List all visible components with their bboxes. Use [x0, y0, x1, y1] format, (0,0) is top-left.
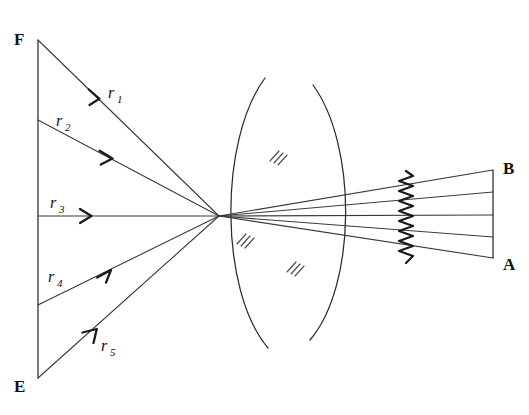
- arrowhead-r1: [89, 90, 100, 106]
- svg-text:r: r: [56, 112, 63, 129]
- label-ray-r4: r 4: [48, 268, 63, 289]
- diagram-labels: F E B A r 1 r 2 r 3 r 4 r 5: [14, 30, 516, 396]
- label-ray-r2: r 2: [56, 112, 71, 133]
- label-point-F: F: [14, 30, 24, 49]
- ray-r2-incident: [38, 120, 219, 216]
- label-point-E: E: [14, 377, 25, 396]
- ray-r3-refracted: [219, 215, 493, 216]
- label-ray-r3: r 3: [50, 194, 65, 215]
- ray-r2-refracted: [219, 192, 493, 216]
- refracted-rays: [219, 170, 493, 258]
- incident-rays: [38, 40, 219, 378]
- svg-text:r: r: [101, 337, 108, 354]
- ray-r5-refracted: [219, 216, 493, 258]
- lens-right-surface: [310, 85, 346, 340]
- optics-ray-diagram: F E B A r 1 r 2 r 3 r 4 r 5: [0, 0, 529, 415]
- svg-text:2: 2: [65, 121, 71, 133]
- hatch-mark-upper: [270, 151, 287, 165]
- label-ray-r5: r 5: [101, 337, 116, 358]
- ray-r4-incident: [38, 216, 219, 305]
- svg-text:r: r: [48, 268, 55, 285]
- svg-text:r: r: [50, 194, 57, 211]
- diagram-canvas: F E B A r 1 r 2 r 3 r 4 r 5: [0, 0, 529, 415]
- label-ray-r1: r 1: [108, 84, 123, 105]
- svg-text:5: 5: [110, 346, 116, 358]
- ray-r1-refracted: [219, 170, 493, 216]
- ray-r4-refracted: [219, 216, 493, 237]
- svg-text:r: r: [108, 84, 115, 101]
- hatch-mark-lower-right: [287, 262, 304, 276]
- label-point-B: B: [503, 159, 514, 178]
- label-point-A: A: [503, 255, 516, 274]
- ray-r5-incident: [38, 216, 219, 378]
- hatch-mark-lower-left: [237, 234, 254, 248]
- svg-text:4: 4: [57, 277, 63, 289]
- svg-text:3: 3: [58, 203, 65, 215]
- svg-text:1: 1: [117, 93, 123, 105]
- arrowhead-r2: [100, 151, 113, 165]
